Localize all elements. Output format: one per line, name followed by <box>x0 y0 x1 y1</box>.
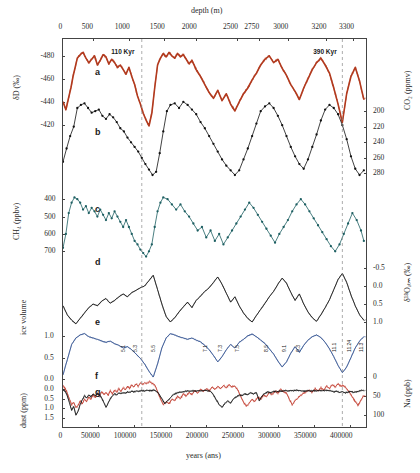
data-point <box>244 208 246 210</box>
top-tick-1000: 1000 <box>115 23 130 31</box>
left-tick-CH4-500: 500 <box>44 213 55 221</box>
data-point <box>358 174 360 176</box>
data-point <box>65 147 67 149</box>
y-axis-title-dust: dust (ppm) <box>20 393 28 428</box>
line-methane <box>63 197 364 256</box>
left-tick-ice_volume-0.5: 0.5 <box>44 354 53 362</box>
data-point <box>191 108 193 110</box>
data-point <box>199 121 201 123</box>
data-point <box>265 228 267 230</box>
left-tick-dust-1.5: 1.5 <box>44 414 53 422</box>
right-tick-CO2-200: 200 <box>373 107 384 115</box>
data-point <box>73 196 75 198</box>
mis-stage-7.1: 7.1 <box>203 345 208 352</box>
data-point <box>112 116 114 118</box>
left-tick-ice_volume-1.0: 1.0 <box>44 332 53 340</box>
series-methane <box>63 196 365 257</box>
plot-canvas <box>63 39 366 427</box>
data-point <box>209 229 211 231</box>
data-point <box>96 215 98 217</box>
data-point <box>235 222 237 224</box>
data-point <box>218 233 220 235</box>
data-point <box>123 130 125 132</box>
data-point <box>330 245 332 247</box>
data-point <box>248 202 250 204</box>
data-point <box>295 203 297 205</box>
data-point <box>159 152 161 154</box>
data-point <box>360 229 362 231</box>
data-point <box>192 222 194 224</box>
line-carbon-dioxide <box>63 102 364 175</box>
data-point <box>343 233 345 235</box>
left-tick-dust-1.0: 1.0 <box>44 404 53 412</box>
bottom-tick-0: 0 <box>59 432 63 440</box>
data-point <box>217 150 219 152</box>
left-tick-dD--480: -480 <box>40 52 54 60</box>
data-point <box>356 219 358 221</box>
panel-letter-b: b <box>95 128 101 137</box>
left-tick-dD--420: -420 <box>40 121 54 129</box>
data-point <box>70 202 72 204</box>
left-tick-CH4-600: 600 <box>44 230 55 238</box>
data-point <box>197 229 199 231</box>
mis-stage-11.1: 11.1 <box>332 343 337 352</box>
left-tick-CH4-400: 400 <box>44 195 55 203</box>
data-point <box>98 108 100 110</box>
data-point <box>178 107 180 109</box>
bottom-tick-200000: 200000 <box>186 432 209 440</box>
data-point <box>268 102 270 104</box>
data-point <box>174 102 176 104</box>
data-point <box>125 219 127 221</box>
top-tick-3200: 3200 <box>311 23 326 31</box>
data-point <box>182 101 184 103</box>
data-point <box>131 233 133 235</box>
data-point <box>214 240 216 242</box>
data-point <box>91 112 93 114</box>
y-axis-title-dD: δD (‰) <box>13 75 21 100</box>
series-dust <box>63 389 366 415</box>
data-point <box>315 133 317 135</box>
data-point <box>82 208 84 210</box>
data-point <box>119 127 121 129</box>
annotation-label: 110 Kyr <box>111 49 134 56</box>
data-point <box>252 207 254 209</box>
data-point <box>76 107 78 109</box>
data-point <box>221 158 223 160</box>
panel-letter-d: d <box>95 258 101 267</box>
data-point <box>139 248 141 250</box>
data-point <box>171 203 173 205</box>
panel-letter-a: a <box>95 68 100 77</box>
mis-stage-11.24: 11.24 <box>347 340 352 352</box>
right-tick-d18Oatm--0.5: -0.5 <box>373 264 385 272</box>
right-tick-d18Oatm-1.0: 1.0 <box>373 318 382 326</box>
line-detail-delta-18O-atm <box>63 274 366 324</box>
data-point <box>229 169 231 171</box>
data-point <box>63 161 64 163</box>
left-tick-dust-0.0: 0.0 <box>44 385 53 393</box>
data-point <box>133 240 135 242</box>
data-point <box>166 110 168 112</box>
line-detail-ice-volume <box>63 333 366 377</box>
panel-letter-c: c <box>95 205 100 214</box>
data-point <box>69 135 71 137</box>
data-point <box>148 168 150 170</box>
data-point <box>80 104 82 106</box>
left-tick-dust-0.5: 0.5 <box>44 395 53 403</box>
y-axis-title-CH4: CH₄ (ppbv) <box>13 203 21 240</box>
data-point <box>166 198 168 200</box>
top-tick-3000: 3000 <box>273 23 288 31</box>
series-delta-18O-atm <box>63 273 366 324</box>
right-tick-CO2-260: 260 <box>373 154 384 162</box>
data-point <box>151 174 153 176</box>
data-point <box>247 147 249 149</box>
data-point <box>159 202 161 204</box>
data-point <box>328 104 330 106</box>
data-point <box>277 115 279 117</box>
data-point <box>242 158 244 160</box>
mis-stage-9.1: 9.1 <box>282 345 287 352</box>
right-tick-Na-100: 100 <box>373 411 384 419</box>
right-tick-CO2-240: 240 <box>373 138 384 146</box>
data-point <box>175 208 177 210</box>
data-point <box>184 210 186 212</box>
data-point <box>154 226 156 228</box>
